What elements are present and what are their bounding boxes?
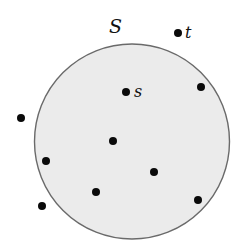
point — [92, 188, 100, 196]
point-t-label: t — [185, 23, 192, 42]
point-s-label: s — [134, 82, 142, 101]
point — [17, 114, 25, 122]
point — [109, 137, 117, 145]
point — [194, 196, 202, 204]
point — [42, 157, 50, 165]
point — [150, 168, 158, 176]
set-s-region — [35, 44, 230, 239]
point — [197, 83, 205, 91]
point-s — [122, 88, 130, 96]
set-s-label: S — [109, 15, 122, 37]
point — [38, 202, 46, 210]
point-t — [174, 29, 182, 37]
set-diagram: S ts — [0, 0, 241, 252]
